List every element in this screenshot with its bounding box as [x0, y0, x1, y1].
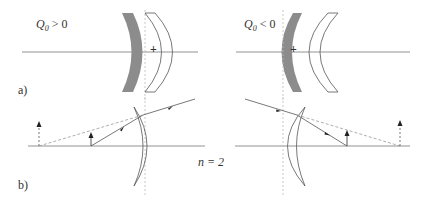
condition-label: Q0 > 0: [36, 17, 67, 33]
arrow-head-icon: [89, 132, 94, 138]
center-mark: +: [290, 42, 297, 56]
refractive-index-label: n = 2: [198, 155, 224, 169]
panel-b-right: [235, 97, 410, 195]
condition-label: Q0 < 0: [244, 17, 275, 33]
panel-b-label: b): [18, 178, 28, 192]
panel-a-label: a): [18, 83, 27, 97]
panel-b-left: [28, 97, 205, 195]
lens-diagram: + Q0 > 0 + Q0 < 0 a) n =: [0, 0, 429, 201]
panel-a-left: + Q0 > 0: [22, 10, 198, 100]
center-mark: +: [150, 42, 157, 56]
lens-shape: [288, 107, 306, 186]
arrow-head-icon: [398, 120, 403, 126]
ray-direction-icon: [325, 132, 331, 136]
mirror-shape: [122, 13, 143, 92]
arrow-head-icon: [37, 121, 42, 127]
light-ray: [245, 99, 347, 146]
virtual-ray: [297, 115, 400, 146]
arrow-head-icon: [345, 130, 350, 136]
lens-shape: [309, 13, 338, 92]
panel-a-right: + Q0 < 0: [236, 10, 410, 100]
